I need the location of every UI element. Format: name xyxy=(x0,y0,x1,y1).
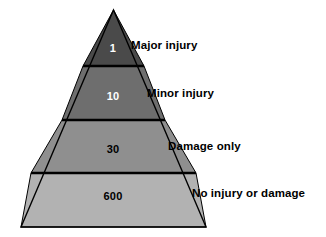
tier-label-no-injury-or-damage: No injury or damage xyxy=(192,187,305,199)
tier-label-minor-injury: Minor injury xyxy=(147,87,214,99)
pyramid-graphic xyxy=(0,0,326,237)
pyramid-tier-no-injury-or-damage xyxy=(21,173,206,227)
tier-label-major-injury: Major injury xyxy=(131,39,197,51)
accident-triangle-figure: 1 10 30 600 Major injury Minor injury Da… xyxy=(0,0,326,237)
pyramid-tier-major-injury xyxy=(83,10,144,66)
tier-label-damage-only: Damage only xyxy=(168,140,241,152)
